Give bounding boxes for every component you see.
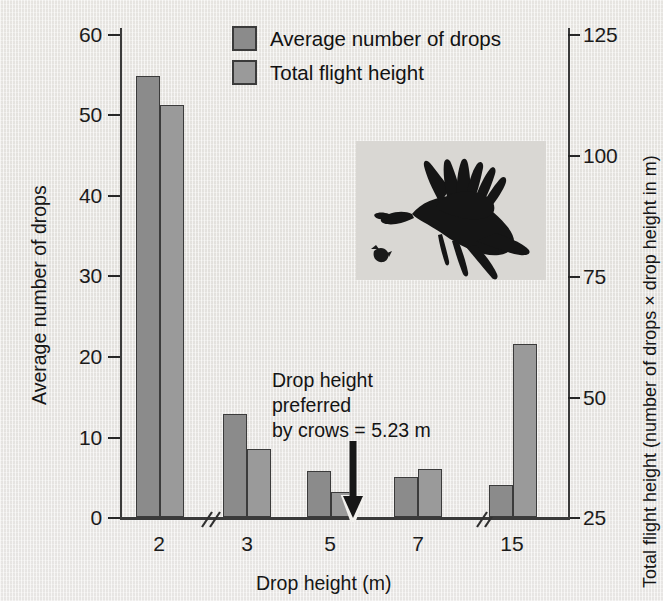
- bar-flight-3m: [247, 449, 271, 517]
- left-tick-0: [108, 517, 120, 519]
- annotation-line-1: Drop height: [272, 368, 373, 393]
- series1-swatch: [232, 26, 257, 51]
- x-tick-label-3: 3: [219, 532, 275, 556]
- bar-flight-7m: [418, 469, 442, 517]
- chart-legend: Average number of drops Total flight hei…: [232, 26, 501, 94]
- legend-item-total-flight-height: Total flight height: [232, 60, 501, 85]
- x-tick-label-5: 5: [302, 532, 358, 556]
- x-tick-label-2: 2: [131, 532, 187, 556]
- bar-flight-15m: [513, 344, 537, 517]
- annotation-line-2: preferred: [272, 393, 351, 418]
- bar-drops-15m: [489, 485, 513, 517]
- legend-label-series1: Average number of drops: [270, 27, 501, 51]
- legend-item-average-number-of-drops: Average number of drops: [232, 26, 501, 51]
- bar-drops-2m: [136, 76, 160, 517]
- series2-swatch: [232, 60, 257, 85]
- annotation-arrow-icon: [338, 440, 372, 526]
- bar-chart-figure: 60 50 40 30 20 10 0 Average number of dr…: [0, 0, 663, 601]
- x-tick-label-15: 15: [484, 532, 540, 556]
- bar-flight-2m: [160, 105, 184, 517]
- legend-label-series2: Total flight height: [270, 61, 424, 85]
- x-axis-title: Drop height (m): [256, 572, 391, 595]
- bar-drops-7m: [394, 477, 418, 517]
- bar-drops-3m: [223, 414, 247, 517]
- crow-in-flight-photo: [356, 141, 546, 280]
- x-tick-label-7: 7: [390, 532, 446, 556]
- bar-drops-5m: [307, 471, 331, 517]
